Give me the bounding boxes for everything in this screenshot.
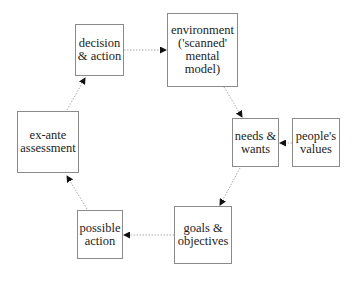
node-decision-action: decision & action: [75, 24, 124, 76]
node-goals-objectives: goals & objectives: [174, 206, 232, 264]
edge-needs-to-goals: [220, 168, 240, 205]
edge-environment-to-needs: [224, 87, 242, 117]
node-label: ex-ante assessment: [20, 129, 76, 155]
node-label: decision & action: [78, 37, 121, 63]
node-needs-wants: needs & wants: [232, 118, 279, 167]
edge-exante-to-decision: [67, 78, 85, 110]
node-label: people's values: [296, 130, 336, 156]
node-peoples-values: people's values: [292, 118, 340, 167]
node-label: possible action: [80, 222, 121, 248]
edge-possible-to-exante: [67, 176, 87, 209]
node-label: environment ('scanned' mental model): [171, 24, 234, 76]
node-ex-ante-assessment: ex-ante assessment: [17, 111, 79, 173]
node-label: goals & objectives: [178, 222, 229, 248]
node-environment: environment ('scanned' mental model): [167, 13, 238, 87]
node-label: needs & wants: [235, 130, 276, 156]
node-possible-action: possible action: [77, 210, 123, 259]
